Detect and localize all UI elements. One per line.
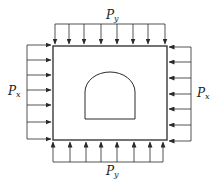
tunnel-outline	[85, 72, 135, 119]
left-load-arrows	[27, 45, 51, 139]
label-px-left: Px	[8, 85, 21, 99]
label-py-top: Py	[106, 9, 119, 23]
load-diagram: Py Py Px Px	[0, 0, 218, 184]
label-px-right: Px	[197, 87, 210, 101]
block-outline	[53, 46, 167, 140]
right-load-arrows	[169, 47, 191, 141]
diagram-canvas	[0, 0, 218, 184]
label-py-bottom: Py	[106, 165, 119, 179]
bottom-load-arrows	[53, 142, 163, 162]
tunnel-opening	[85, 72, 135, 119]
top-load-arrows	[55, 24, 165, 44]
rock-block	[53, 46, 167, 140]
